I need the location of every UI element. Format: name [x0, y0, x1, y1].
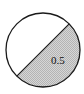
- fraction-circle-diagram: 0.5: [0, 0, 84, 94]
- shaded-fraction-label: 0.5: [51, 54, 65, 66]
